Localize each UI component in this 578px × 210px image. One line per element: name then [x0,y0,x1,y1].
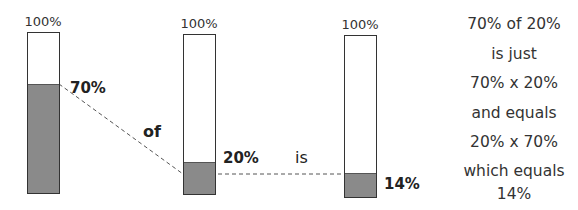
explanation-line-5: 20% x 70% [450,128,578,158]
connector-is: is [295,148,308,167]
bar-3-cap-label: 100% [330,17,390,32]
bar-1-fill [28,84,59,193]
bar-3-percent-label: 14% [384,175,420,193]
bar-1-cap-label: 100% [13,14,73,29]
bar-2-percent-label: 20% [223,149,259,167]
bar-1-percent-label: 70% [70,79,106,97]
connector-of: of [143,122,161,141]
explanation-line-2: is just [450,40,578,70]
bar-3-fill [345,173,376,197]
explanation-line-1: 70% of 20% [450,10,578,40]
bar-2-cap-label: 100% [169,16,229,31]
explanation-line-3: 70% x 20% [450,69,578,99]
explanation-line-4: and equals [450,99,578,129]
bar-2-whole [183,34,216,195]
bar-3-whole [344,35,377,198]
bar-2-fill [184,162,215,194]
bar-1-whole [27,32,60,194]
explanation-line-7: 14% [450,185,578,203]
explanation-text: 70% of 20% is just 70% x 20% and equals … [450,10,578,203]
explanation-line-6: which equals [450,158,578,185]
